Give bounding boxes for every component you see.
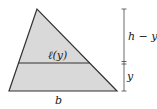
triangle-diagram: ℓ(y) b h − y y [0, 0, 157, 109]
cross-section-label: ℓ(y) [48, 49, 67, 62]
upper-height-label: h − y [128, 30, 157, 43]
base-label: b [55, 94, 62, 107]
lower-height-label: y [126, 70, 134, 83]
